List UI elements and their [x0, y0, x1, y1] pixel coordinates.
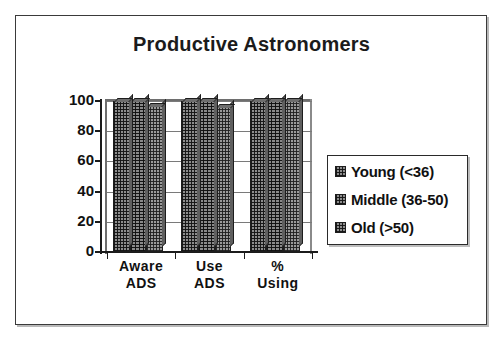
plot-left-wall: [105, 99, 107, 254]
legend-box: Young (<36)Middle (36-50)Old (>50): [327, 155, 468, 245]
y-axis-tick-label: 60: [54, 154, 94, 166]
x-axis-labels: AwareADSUseADS%Using: [0, 258, 503, 318]
y-axis-tick: [95, 130, 101, 132]
bar-side-face: [214, 94, 218, 247]
y-axis-tick: [95, 160, 101, 162]
bar-front-face: [267, 102, 282, 251]
bar-side-face: [265, 94, 269, 247]
bar-front-face: [114, 102, 129, 251]
bar: [181, 101, 198, 252]
pattern-swatch-young: [335, 166, 346, 177]
y-axis-line: [100, 99, 102, 254]
chart-figure: Productive Astronomers 020406080100 Awar…: [0, 0, 503, 342]
bar-side-face: [282, 94, 286, 247]
x-axis-category-label: %Using: [232, 258, 324, 292]
bar-side-face: [129, 94, 133, 247]
legend-item: Young (<36): [335, 162, 434, 180]
y-axis-tick: [95, 191, 101, 193]
bar-side-face: [145, 94, 149, 247]
y-axis-tick-label: 100: [54, 94, 94, 106]
legend-item: Old (>50): [335, 218, 414, 236]
x-axis-label-line2: Using: [232, 275, 324, 292]
x-axis-label-line1: %: [232, 258, 324, 275]
bar-front-face: [182, 102, 197, 251]
bar-front-face: [251, 102, 266, 251]
y-axis-tick-label: 80: [54, 124, 94, 136]
bar-side-face: [299, 94, 303, 247]
y-axis-tick: [95, 221, 101, 223]
bar-side-face: [162, 99, 166, 247]
legend-item-label: Young (<36): [351, 163, 434, 180]
y-axis-tick-label: 40: [54, 185, 94, 197]
pattern-swatch-middle: [335, 194, 346, 205]
bar-side-face: [230, 100, 234, 247]
y-axis-tick-label: 0: [54, 245, 94, 257]
legend-item: Middle (36-50): [335, 190, 448, 208]
bar-side-face: [197, 94, 201, 247]
y-axis-tick-label: 20: [54, 215, 94, 227]
bar-front-face: [147, 107, 162, 251]
bar-front-face: [284, 102, 299, 251]
bar: [113, 101, 130, 252]
bar-front-face: [199, 102, 214, 251]
y-axis-tick: [95, 251, 101, 253]
legend-item-label: Old (>50): [351, 219, 414, 236]
legend-item-label: Middle (36-50): [351, 191, 448, 208]
y-axis-tick: [95, 100, 101, 102]
bar: [250, 101, 267, 252]
pattern-swatch-old: [335, 222, 346, 233]
plot-right-wall: [310, 99, 312, 254]
